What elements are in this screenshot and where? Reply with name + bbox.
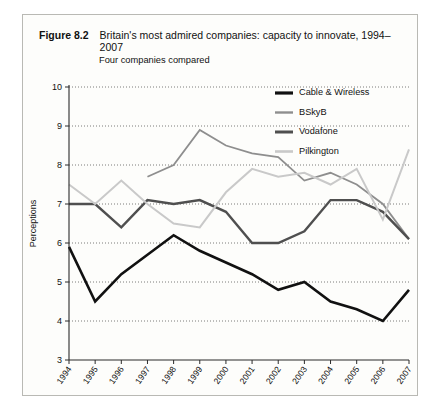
x-tick-label: 2000: [211, 364, 230, 386]
legend-label: BSkyB: [299, 107, 327, 117]
legend-label: Pilkington: [299, 146, 339, 156]
y-tick-label: 6: [57, 238, 62, 248]
x-tick-label: 1997: [133, 364, 152, 386]
y-tick-label: 10: [52, 82, 62, 92]
chart-canvas: 345678910 199419951996199719981999200020…: [23, 63, 419, 393]
y-tick-label: 5: [57, 277, 62, 287]
x-tick-label: 2002: [264, 364, 283, 386]
x-tick-label: 2007: [394, 364, 413, 386]
figure-title: Britain's most admired companies: capaci…: [100, 29, 403, 53]
grid-lines: [69, 87, 409, 321]
x-tick-label: 1999: [185, 364, 204, 386]
x-tick-label: 1996: [107, 364, 126, 386]
line-chart: 345678910 199419951996199719981999200020…: [23, 63, 419, 393]
legend-label: Cable & Wireless: [299, 87, 370, 97]
x-tick-label: 2003: [290, 364, 309, 386]
series-line: [69, 200, 409, 243]
y-tick-labels: 345678910: [52, 82, 62, 365]
x-tick-labels: 1994199519961997199819992000200120022003…: [54, 364, 413, 386]
y-tick-label: 7: [57, 199, 62, 209]
chart-legend: Cable & WirelessBSkyBVodafonePilkington: [275, 87, 370, 156]
figure-header: Figure 8.2 Britain's most admired compan…: [39, 29, 403, 65]
y-tick-label: 9: [57, 121, 62, 131]
series-line: [69, 149, 409, 227]
figure-card: Figure 8.2 Britain's most admired compan…: [22, 14, 418, 396]
x-tick-label: 2006: [368, 364, 387, 386]
x-tick-label: 1998: [159, 364, 178, 386]
y-tick-label: 8: [57, 160, 62, 170]
y-tick-label: 3: [57, 355, 62, 365]
y-tick-label: 4: [57, 316, 62, 326]
series-line: [147, 130, 409, 239]
y-axis-title-label: Perceptions: [28, 199, 38, 247]
y-axis-title: Perceptions: [28, 199, 38, 247]
x-tick-label: 1994: [54, 364, 73, 386]
x-tick-label: 2005: [342, 364, 361, 386]
figure-title-row: Figure 8.2 Britain's most admired compan…: [39, 29, 403, 53]
series-line: [69, 235, 409, 321]
x-tick-label: 2004: [316, 364, 335, 386]
x-tick-label: 1995: [81, 364, 100, 386]
legend-label: Vodafone: [299, 126, 338, 136]
figure-number: Figure 8.2: [39, 29, 89, 41]
x-tick-label: 2001: [238, 364, 257, 386]
series-lines: [69, 130, 409, 321]
